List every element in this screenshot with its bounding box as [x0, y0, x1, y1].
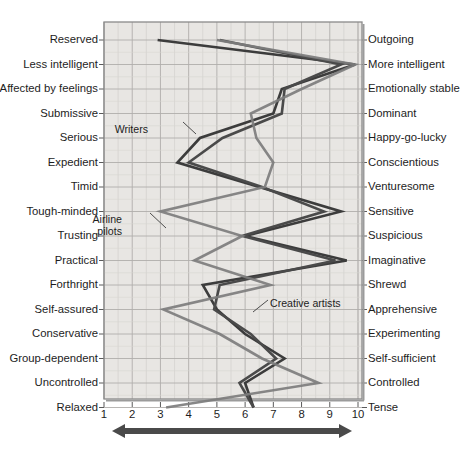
annotation-writers: Writers [115, 124, 148, 135]
right-label-experimenting: Experimenting [368, 328, 440, 339]
right-label-conscientious: Conscientious [368, 157, 439, 168]
x-tick-label-5: 5 [205, 408, 229, 420]
right-label-imaginative: Imaginative [368, 255, 426, 266]
left-label-affected-by-feelings: Affected by feelings [0, 83, 98, 94]
left-label-tough-minded: Tough-minded [26, 206, 98, 217]
annotation-pilots: pilots [97, 226, 122, 237]
annotation-creative-artists: Creative artists [270, 298, 341, 309]
x-tick-label-10: 10 [346, 408, 370, 420]
left-label-expedient: Expedient [48, 157, 98, 168]
right-label-shrewd: Shrewd [368, 279, 406, 290]
x-tick-label-3: 3 [148, 408, 172, 420]
right-label-happy-go-lucky: Happy-go-lucky [368, 132, 446, 143]
left-label-serious: Serious [60, 132, 98, 143]
left-label-practical: Practical [55, 255, 98, 266]
right-label-suspicious: Suspicious [368, 230, 423, 241]
left-label-submissive: Submissive [40, 108, 98, 119]
left-label-timid: Timid [71, 181, 98, 192]
left-label-self-assured: Self-assured [35, 304, 98, 315]
x-tick-label-6: 6 [233, 408, 257, 420]
left-label-uncontrolled: Uncontrolled [35, 377, 98, 388]
axis-arrow-head-right [339, 424, 352, 438]
x-tick-label-4: 4 [177, 408, 201, 420]
right-label-more-intelligent: More intelligent [368, 59, 445, 70]
left-label-reserved: Reserved [50, 34, 98, 45]
right-label-emotionally-stable: Emotionally stable [368, 83, 460, 94]
x-tick-label-2: 2 [120, 408, 144, 420]
right-label-dominant: Dominant [368, 108, 416, 119]
axis-arrow-head-left [112, 424, 125, 438]
left-label-less-intelligent: Less intelligent [23, 59, 98, 70]
left-label-trusting: Trusting [58, 230, 98, 241]
right-label-apprehensive: Apprehensive [368, 304, 437, 315]
left-label-group-dependent: Group-dependent [9, 353, 98, 364]
x-tick-label-9: 9 [318, 408, 342, 420]
x-tick-label-7: 7 [261, 408, 285, 420]
x-tick-label-8: 8 [290, 408, 314, 420]
right-label-venturesome: Venturesome [368, 181, 435, 192]
left-label-conservative: Conservative [32, 328, 98, 339]
right-label-controlled: Controlled [368, 377, 420, 388]
x-tick-label-1: 1 [92, 408, 116, 420]
right-label-self-sufficient: Self-sufficient [368, 353, 436, 364]
right-label-sensitive: Sensitive [368, 206, 414, 217]
annotation-airline: Airline [93, 214, 122, 225]
left-label-forthright: Forthright [50, 279, 98, 290]
right-label-outgoing: Outgoing [368, 34, 414, 45]
right-label-tense: Tense [368, 402, 398, 413]
